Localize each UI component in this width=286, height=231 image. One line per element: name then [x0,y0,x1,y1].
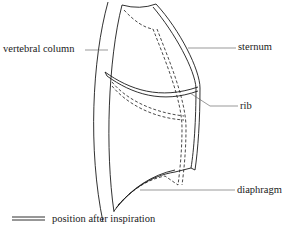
sternum-dashed-inner [157,29,186,185]
vertebral-column-inner [109,5,122,212]
vertebral-column-outer [94,2,108,222]
cage-top-edge [122,4,156,7]
thorax-drawing [0,0,286,231]
legend-text: position after inspiration [52,214,155,225]
label-vertebral-column: vertebral column [3,44,74,55]
rib-inner [107,76,198,97]
rib-dashed-1 [112,82,184,116]
cage-top-dashed [124,10,153,29]
sternum-bottom [191,168,195,170]
sternum-dashed-outer [153,29,182,185]
leader-rib [190,93,238,106]
thorax-diagram: vertebral column sternum rib diaphragm p… [0,0,286,231]
legend-double-line-icon [12,217,45,220]
label-sternum: sternum [238,42,272,53]
label-diaphragm: diaphragm [237,185,282,196]
label-rib: rib [240,101,252,112]
diaphragm-inner [116,170,175,208]
